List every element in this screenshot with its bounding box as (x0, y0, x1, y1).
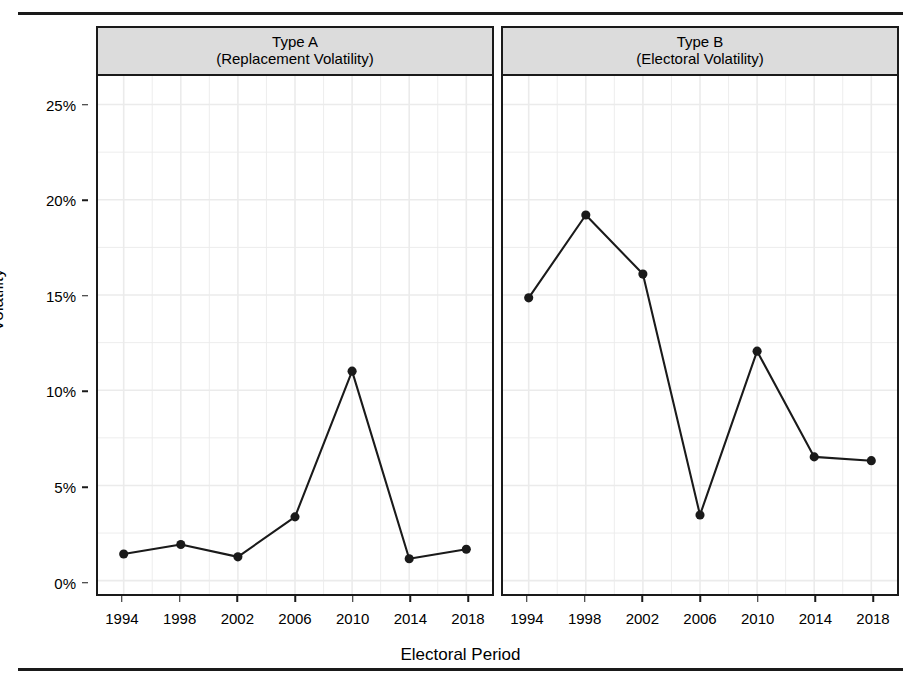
x-tick-mark (237, 596, 239, 602)
y-tick-mark (82, 391, 88, 393)
y-tick-mark (82, 582, 88, 584)
facet-strip-line2: (Replacement Volatility) (216, 51, 374, 68)
x-tick-mark (294, 596, 296, 602)
plot-body-type-a (96, 76, 494, 596)
y-axis-tick-column: 0%5%10%15%20%25% (20, 0, 88, 685)
facet-panel-type-a: Type A (Replacement Volatility) (96, 26, 494, 596)
x-tick-label: 1998 (568, 610, 601, 627)
y-tick-mark (82, 104, 88, 106)
facet-panel-type-b: Type B (Electoral Volatility) (501, 26, 899, 596)
x-axis-ticks-type-b: 1994199820022006201020142018 (501, 604, 899, 634)
x-tick-mark (526, 596, 528, 602)
x-tick-mark (467, 596, 469, 602)
bottom-horizontal-rule (18, 668, 903, 671)
x-tick-label: 1994 (105, 610, 138, 627)
x-tick-label: 2002 (626, 610, 659, 627)
top-horizontal-rule (18, 12, 903, 15)
x-tick-mark (121, 596, 123, 602)
facet-strip-line2: (Electoral Volatility) (636, 51, 764, 68)
x-tick-label: 2014 (394, 610, 427, 627)
y-axis-title: Volatility (0, 269, 8, 331)
y-tick-label: 20% (46, 192, 76, 209)
y-tick-label: 5% (54, 479, 76, 496)
x-tick-mark (815, 596, 817, 602)
x-tick-label: 2006 (683, 610, 716, 627)
x-tick-mark (642, 596, 644, 602)
x-tick-mark (584, 596, 586, 602)
x-tick-mark (410, 596, 412, 602)
figure-container: 0%5%10%15%20%25% Volatility Type A (Repl… (0, 0, 921, 685)
facet-strip-type-b: Type B (Electoral Volatility) (501, 26, 899, 76)
y-tick-label: 15% (46, 287, 76, 304)
y-tick-label: 10% (46, 383, 76, 400)
x-tick-label: 2010 (336, 610, 369, 627)
x-tick-label: 2014 (799, 610, 832, 627)
y-tick-label: 0% (54, 574, 76, 591)
y-tick-mark (82, 200, 88, 202)
x-axis-ticks-type-a: 1994199820022006201020142018 (96, 604, 494, 634)
x-tick-mark (699, 596, 701, 602)
facet-strip-line1: Type B (677, 34, 724, 51)
x-tick-label: 2018 (856, 610, 889, 627)
facet-strip-line1: Type A (272, 34, 318, 51)
y-tick-mark (82, 486, 88, 488)
y-tick-label: 25% (46, 96, 76, 113)
y-tick-mark (82, 295, 88, 297)
x-tick-mark (179, 596, 181, 602)
x-tick-label: 2018 (451, 610, 484, 627)
x-tick-label: 2002 (221, 610, 254, 627)
data-line-type-a (98, 76, 492, 594)
data-line-type-b (503, 76, 897, 594)
plot-body-type-b (501, 76, 899, 596)
x-axis-title: Electoral Period (0, 645, 921, 665)
x-tick-mark (872, 596, 874, 602)
x-tick-label: 2010 (741, 610, 774, 627)
facet-strip-type-a: Type A (Replacement Volatility) (96, 26, 494, 76)
x-tick-mark (757, 596, 759, 602)
x-tick-label: 1994 (510, 610, 543, 627)
x-tick-label: 1998 (163, 610, 196, 627)
x-tick-label: 2006 (278, 610, 311, 627)
x-tick-mark (352, 596, 354, 602)
